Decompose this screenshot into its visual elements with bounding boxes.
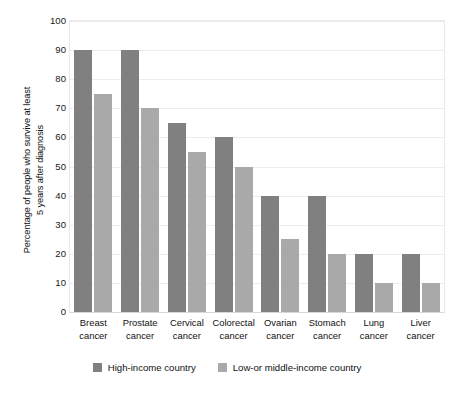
bar: [328, 254, 346, 312]
bar: [94, 94, 112, 312]
bars-layer: [70, 21, 444, 312]
y-tick-label: 90: [40, 45, 66, 55]
y-tick-label: 60: [40, 132, 66, 142]
bar: [188, 152, 206, 312]
bar: [121, 50, 139, 312]
y-tick-label: 40: [40, 191, 66, 201]
legend-label-high-income: High-income country: [108, 362, 196, 373]
bar: [261, 196, 279, 312]
x-tick-label: Stomach cancer: [305, 317, 349, 342]
bar: [402, 254, 420, 312]
bar-group: [74, 21, 112, 312]
bar: [308, 196, 326, 312]
bar-group: [168, 21, 206, 312]
x-tick-label: Colorectal cancer: [212, 317, 256, 342]
y-tick-label: 0: [40, 307, 66, 317]
bar-group: [355, 21, 393, 312]
bar: [74, 50, 92, 312]
x-tick-label: Cervical cancer: [165, 317, 209, 342]
legend-item-low-or-middle-income: Low-or middle-income country: [218, 362, 362, 373]
bar: [422, 283, 440, 312]
x-tick-label: Ovarian cancer: [258, 317, 302, 342]
bar-chart: Percentage of people who survive at leas…: [0, 0, 454, 397]
bar: [215, 137, 233, 312]
x-tick-label: Liver cancer: [399, 317, 443, 342]
chart-legend: High-income country Low-or middle-income…: [0, 362, 454, 373]
x-tick-label: Lung cancer: [352, 317, 396, 342]
x-axis-tick-labels: Breast cancerProstate cancerCervical can…: [70, 317, 444, 342]
bar-group: [308, 21, 346, 312]
gridline: [70, 312, 444, 313]
legend-swatch-icon-high-income: [93, 363, 102, 372]
legend-item-high-income: High-income country: [93, 362, 196, 373]
legend-swatch-icon-low-or-middle-income: [218, 363, 227, 372]
y-tick-label: 20: [40, 249, 66, 259]
bar: [141, 108, 159, 312]
bar: [375, 283, 393, 312]
y-tick-label: 30: [40, 220, 66, 230]
bar: [168, 123, 186, 312]
y-tick-label: 80: [40, 74, 66, 84]
x-tick-label: Breast cancer: [71, 317, 115, 342]
y-tick-label: 100: [40, 16, 66, 26]
bar-group: [402, 21, 440, 312]
y-tick-label: 10: [40, 278, 66, 288]
y-tick-label: 50: [40, 162, 66, 172]
x-tick-label: Prostate cancer: [118, 317, 162, 342]
y-tick-label: 70: [40, 103, 66, 113]
bar: [281, 239, 299, 312]
legend-label-low-or-middle-income: Low-or middle-income country: [233, 362, 362, 373]
bar: [235, 167, 253, 313]
bar-group: [261, 21, 299, 312]
bar-group: [215, 21, 253, 312]
bar: [355, 254, 373, 312]
bar-group: [121, 21, 159, 312]
